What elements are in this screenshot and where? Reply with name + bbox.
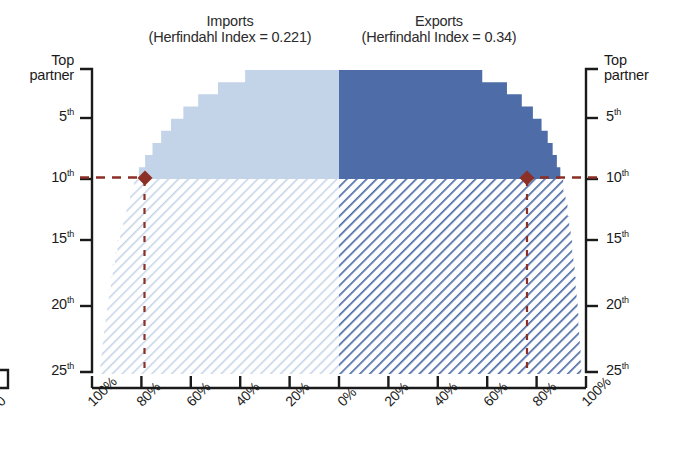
right-y-axis xyxy=(586,69,598,372)
chart-figure: Imports (Herfindahl Index = 0.221) Expor… xyxy=(0,0,677,449)
clipped-left-axis-fragment xyxy=(0,370,8,388)
right-ytick-5th: 5th xyxy=(606,108,621,124)
right-ytick-25th: 25th xyxy=(606,362,629,378)
left-ytick-15th: 15th xyxy=(16,230,74,246)
left-ytick-10th: 10th xyxy=(16,169,74,185)
left-axis-top-partner-label: Top partner xyxy=(16,53,74,83)
left-ytick-5th: 5th xyxy=(16,108,74,124)
x-axis xyxy=(92,376,586,388)
right-ytick-20th: 20th xyxy=(606,296,629,312)
right-ytick-10th: 10th xyxy=(606,169,629,185)
exports-area xyxy=(339,70,581,374)
left-ytick-20th: 20th xyxy=(16,296,74,312)
left-ytick-25th: 25th xyxy=(16,362,74,378)
imports-area xyxy=(100,70,339,374)
left-y-axis xyxy=(80,69,92,372)
right-ytick-15th: 15th xyxy=(606,230,629,246)
right-axis-top-partner-label: Top partner xyxy=(604,53,670,83)
chart-plot-area xyxy=(100,70,581,374)
